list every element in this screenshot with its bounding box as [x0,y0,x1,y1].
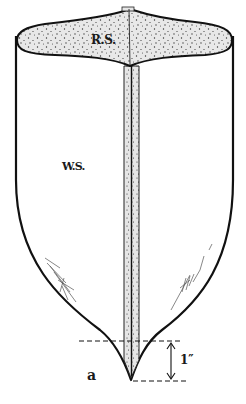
hatch-marks-right [171,244,212,310]
label-a: a [87,368,96,382]
label-one-inch: 1″ [180,354,194,366]
dimension-arrow [167,343,175,379]
diagram-canvas [0,0,246,404]
label-ws: W.S. [62,161,85,172]
top-tab [122,7,134,11]
label-rs: R.S. [91,34,116,46]
rs-region [17,10,232,66]
